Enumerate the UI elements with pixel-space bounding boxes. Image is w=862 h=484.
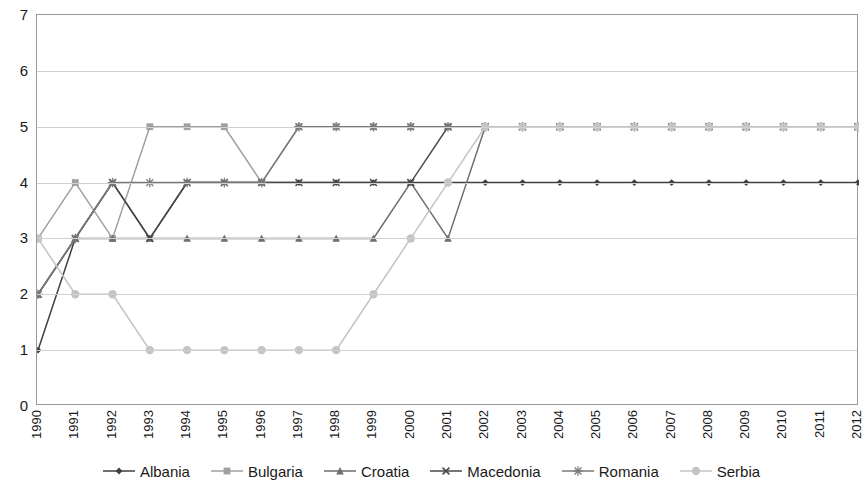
y-tick-label: 6 [20, 62, 28, 77]
series-croatia [37, 123, 859, 298]
x-tick-label: 1995 [216, 410, 229, 439]
x-tick-label: 1992 [105, 410, 118, 439]
legend-label: Albania [140, 464, 190, 479]
x-tick-label: 2004 [552, 410, 565, 439]
series-line [38, 127, 858, 295]
x-tick-label: 2002 [477, 410, 490, 439]
y-tick-label: 1 [20, 342, 28, 357]
y-tick-label: 7 [20, 7, 28, 22]
x-tick-label: 1993 [142, 410, 155, 439]
x-tick-label: 2008 [701, 410, 714, 439]
x-tick-label: 2010 [775, 410, 788, 439]
y-tick-label: 2 [20, 286, 28, 301]
legend-item-bulgaria[interactable]: Bulgaria [210, 464, 303, 479]
y-tick-label: 5 [20, 118, 28, 133]
legend-item-serbia[interactable]: Serbia [679, 464, 760, 479]
legend-marker-diamond-icon [102, 464, 136, 478]
series-line [38, 183, 858, 351]
gridline [37, 183, 857, 184]
legend-marker-circle-icon [679, 464, 713, 478]
x-tick-label: 2009 [738, 410, 751, 439]
gridline [37, 127, 857, 128]
x-tick-label: 2012 [850, 410, 862, 439]
legend-marker-asterisk-icon [561, 464, 595, 478]
series-macedonia [37, 123, 859, 297]
x-tick-label: 1998 [328, 410, 341, 439]
x-tick-label: 2003 [515, 410, 528, 439]
x-tick-label: 1994 [179, 410, 192, 439]
legend-marker-cross-icon [429, 464, 463, 478]
x-tick-label: 1990 [30, 410, 43, 439]
y-tick-label: 0 [20, 398, 28, 413]
x-tick-label: 1999 [365, 410, 378, 439]
data-point-circle-marker [692, 467, 700, 475]
legend-label: Romania [599, 464, 659, 479]
plot-area [36, 14, 858, 405]
x-tick-label: 2005 [589, 410, 602, 439]
gridline [37, 294, 857, 295]
chart-container: 01234567 1990199119921993199419951996199… [0, 0, 862, 484]
legend-marker-square-icon [210, 464, 244, 478]
series-lines [37, 15, 859, 406]
gridline [37, 350, 857, 351]
chart-legend: AlbaniaBulgariaCroatiaMacedoniaRomaniaSe… [0, 458, 862, 484]
legend-label: Bulgaria [248, 464, 303, 479]
x-tick-label: 2001 [440, 410, 453, 439]
series-romania [37, 122, 859, 299]
legend-marker-triangle-icon [323, 464, 357, 478]
x-tick-label: 2000 [403, 410, 416, 439]
series-line [38, 127, 858, 295]
y-tick-label: 3 [20, 230, 28, 245]
x-tick-label: 2011 [813, 410, 826, 438]
data-point-square-marker [224, 468, 231, 475]
legend-label: Croatia [361, 464, 409, 479]
legend-item-croatia[interactable]: Croatia [323, 464, 409, 479]
x-tick-label: 1991 [67, 410, 80, 439]
y-axis: 01234567 [0, 0, 36, 405]
legend-label: Macedonia [467, 464, 540, 479]
series-albania [37, 179, 859, 353]
y-tick-label: 4 [20, 174, 28, 189]
legend-item-macedonia[interactable]: Macedonia [429, 464, 540, 479]
legend-item-albania[interactable]: Albania [102, 464, 190, 479]
x-tick-label: 1996 [254, 410, 267, 439]
x-tick-label: 1997 [291, 410, 304, 439]
gridline [37, 238, 857, 239]
series-line [38, 127, 858, 295]
data-point-diamond-marker [115, 468, 122, 475]
legend-label: Serbia [717, 464, 760, 479]
x-tick-label: 2007 [664, 410, 677, 439]
legend-item-romania[interactable]: Romania [561, 464, 659, 479]
data-point-asterisk-marker [573, 466, 583, 476]
x-tick-label: 2006 [626, 410, 639, 439]
x-axis: 1990199119921993199419951996199719981999… [36, 408, 858, 454]
gridline [37, 71, 857, 72]
